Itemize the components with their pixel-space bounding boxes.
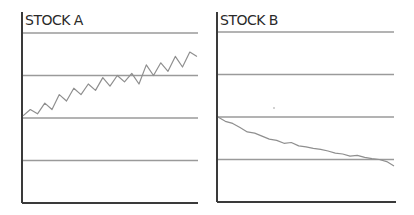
- stock-comparison-charts: STOCK A STOCK B: [0, 0, 414, 215]
- stock-b-series-line: [218, 117, 394, 166]
- stock-a-panel: STOCK A: [22, 12, 198, 203]
- stock-a-series-line: [23, 52, 197, 116]
- stock-b-panel: STOCK B: [217, 12, 396, 202]
- stock-a-title: STOCK A: [25, 12, 84, 28]
- stray-dot: [273, 107, 275, 109]
- stock-b-title: STOCK B: [220, 12, 278, 28]
